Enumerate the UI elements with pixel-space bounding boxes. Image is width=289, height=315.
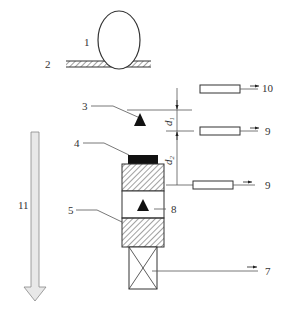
triangle-marker-icon xyxy=(134,113,146,126)
label-10: 10 xyxy=(262,82,274,94)
label-1: 1 xyxy=(84,36,90,48)
sensor-bar-10 xyxy=(200,85,240,93)
black-block xyxy=(128,155,158,164)
diagram-canvas: 1 2 3 d1 d2 10 9 9 4 8 5 7 xyxy=(0,0,289,315)
crossed-box xyxy=(129,247,157,289)
hatched-block-5 xyxy=(122,218,164,247)
label-2: 2 xyxy=(45,58,51,70)
label-7: 7 xyxy=(265,265,271,277)
label-4: 4 xyxy=(74,137,80,149)
downward-arrow-icon xyxy=(24,132,46,301)
label-d1: d1 xyxy=(162,117,176,126)
sensor-bar-9-lower xyxy=(193,181,233,189)
label-8: 8 xyxy=(171,203,177,215)
sensor-bar-9-upper xyxy=(200,127,240,135)
sphere-shape xyxy=(98,11,140,69)
label-9-upper: 9 xyxy=(265,125,271,137)
label-11: 11 xyxy=(18,199,29,211)
hatched-block-upper xyxy=(122,164,164,191)
label-9-lower: 9 xyxy=(265,179,271,191)
label-3: 3 xyxy=(82,100,88,112)
label-5: 5 xyxy=(68,204,74,216)
